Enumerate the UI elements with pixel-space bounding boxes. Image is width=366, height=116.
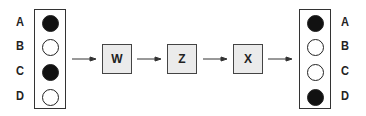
output-dot-a-filled — [307, 15, 324, 32]
output-dot-d-filled — [307, 89, 324, 106]
arrow-head-icon — [221, 57, 227, 61]
arrow-head-icon — [90, 57, 96, 61]
output-label-a: A — [340, 15, 350, 29]
output-label-c: C — [340, 64, 350, 78]
output-label-d: D — [340, 89, 350, 103]
output-panel — [299, 9, 331, 109]
arrow-head-icon — [155, 57, 161, 61]
output-dot-c-empty — [307, 64, 324, 81]
arrow-head-icon — [286, 57, 292, 61]
output-dot-b-empty — [307, 39, 324, 56]
output-label-b: B — [340, 39, 350, 53]
